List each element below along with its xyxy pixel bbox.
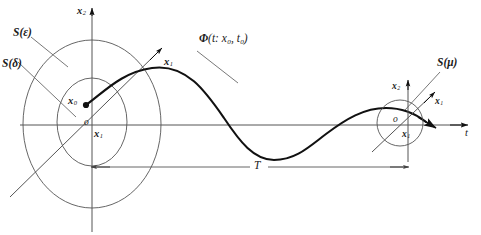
s-epsilon-leader-line: [31, 37, 68, 67]
dimension-span-label: T: [254, 160, 260, 172]
phi-label-leader-line: [197, 51, 238, 83]
s-epsilon-label: S(ε): [13, 27, 32, 39]
initial-point-label: x0: [68, 96, 77, 107]
trajectory-label: Φ(t: x0, t0): [199, 33, 248, 46]
stability-diagram-figure: x2 S(ε) S(δ) x0 o x1 x1 Φ(t: x0, t0) S(μ…: [0, 0, 481, 235]
right-diagonal-axis-label: x1: [435, 97, 443, 107]
left-diagonal-axis-label: x1: [164, 57, 173, 68]
right-horizontal-axis-label: x1: [402, 130, 410, 140]
trajectory-curve: [86, 67, 426, 160]
s-delta-leader-line: [18, 62, 76, 117]
s-delta-label: S(δ): [2, 58, 22, 70]
trajectory-arrow: [418, 117, 436, 128]
time-axis-label: t: [465, 128, 468, 139]
right-vertical-axis-label: x2: [392, 82, 400, 92]
right-origin-label: o: [393, 115, 398, 125]
s-mu-label: S(μ): [437, 57, 457, 69]
left-vertical-axis-label: x2: [77, 6, 86, 17]
left-origin-label: o: [84, 118, 89, 128]
left-horizontal-axis-label: x1: [94, 129, 103, 140]
right-circle-s-mu: [377, 100, 423, 146]
